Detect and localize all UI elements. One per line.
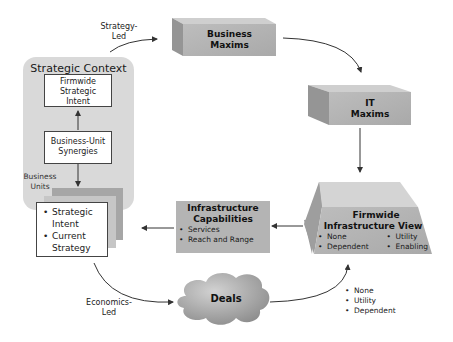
economics-led-line-1: Economics- — [84, 298, 134, 308]
synergies-line-2: Synergies — [45, 147, 111, 157]
firmwide-item-utility: Utility — [386, 232, 428, 242]
bu-strategy-list: StrategicIntent CurrentStrategy — [43, 206, 107, 254]
business-maxims-side — [172, 18, 183, 56]
firmwide-intent-line-1: Firmwide — [45, 77, 111, 87]
firmwide-intent-line-3: Intent — [45, 97, 111, 107]
strategy-led-label: Strategy- Led — [96, 22, 142, 42]
business-unit-synergies-box: Business-Unit Synergies — [44, 131, 112, 164]
firmwide-view-items: None Dependent Utility Enabling — [322, 232, 430, 252]
infra-title-1: Infrastructure — [176, 203, 270, 214]
business-maxims-top — [172, 18, 276, 24]
firmwide-view-items-right: Utility Enabling — [386, 232, 428, 252]
strategy-led-line-1: Strategy- — [96, 22, 142, 32]
firmwide-view-title-1: Firmwide — [322, 210, 430, 221]
firmwide-infrastructure-view: Firmwide Infrastructure View None Depend… — [322, 210, 430, 252]
business-unit-strategy-box: StrategicIntent CurrentStrategy — [36, 202, 108, 257]
infra-capabilities-list: Services Reach and Range — [179, 225, 270, 245]
business-units-line-1: Business — [23, 172, 57, 182]
infra-title-2: Capabilities — [176, 214, 270, 225]
deals-item-dependent: Dependent — [345, 306, 396, 316]
infrastructure-capabilities-box: Infrastructure Capabilities Services Rea… — [176, 203, 270, 245]
it-maxims-line-2: Maxims — [329, 109, 411, 120]
deals-label: Deals — [196, 293, 256, 304]
firmwide-item-none: None — [318, 232, 369, 242]
infra-item-services: Services — [179, 225, 270, 235]
it-maxims-box: IT Maxims — [329, 98, 411, 120]
strategy-led-line-2: Led — [96, 32, 142, 42]
firmwide-item-enabling: Enabling — [386, 242, 428, 252]
business-units-label: Business Units — [23, 172, 57, 192]
business-maxims-line-1: Business — [183, 29, 276, 40]
economics-led-line-2: Led — [84, 308, 134, 318]
business-maxims-line-2: Maxims — [183, 40, 276, 51]
firmwide-view-items-left: None Dependent — [318, 232, 369, 252]
it-maxims-line-1: IT — [329, 98, 411, 109]
economics-led-label: Economics- Led — [84, 298, 134, 318]
business-units-line-2: Units — [23, 182, 57, 192]
deals-item-utility: Utility — [345, 296, 396, 306]
business-maxims-box: Business Maxims — [183, 29, 276, 51]
firmwide-view-title-2: Infrastructure View — [316, 221, 430, 232]
deals-outcome-list: None Utility Dependent — [345, 286, 396, 316]
deals-item-none: None — [345, 286, 396, 296]
firmwide-item-dependent: Dependent — [318, 242, 369, 252]
infra-item-reach-range: Reach and Range — [179, 235, 270, 245]
synergies-line-1: Business-Unit — [45, 137, 111, 147]
bu-item-strategic-intent: StrategicIntent — [43, 206, 107, 230]
bu-item-current-strategy: CurrentStrategy — [43, 230, 107, 254]
firmwide-intent-line-2: Strategic — [45, 87, 111, 97]
firmwide-strategic-intent-box: Firmwide Strategic Intent — [44, 74, 112, 107]
